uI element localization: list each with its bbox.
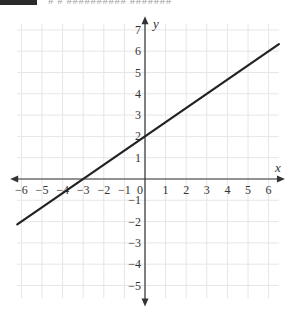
x-tick-label: −6 (15, 183, 28, 197)
y-tick-label: 7 (135, 23, 141, 37)
x-tick-label: 1 (163, 183, 169, 197)
x-tick-label: 2 (183, 183, 189, 197)
y-axis-label: y (151, 16, 159, 31)
x-tick-label: 6 (266, 183, 272, 197)
x-tick-label: 5 (245, 183, 251, 197)
x-tick-label: −2 (97, 183, 110, 197)
x-tick-label: −5 (36, 183, 49, 197)
x-axis-arrow-left-icon (10, 176, 18, 183)
y-tick-label: −3 (128, 236, 141, 250)
y-tick-label: −4 (128, 257, 141, 271)
y-axis-arrow-up-icon (142, 16, 149, 24)
y-tick-label: 6 (135, 44, 141, 58)
y-tick-label: −2 (128, 215, 141, 229)
y-tick-label: 5 (135, 66, 141, 80)
y-axis-arrow-down-icon (142, 299, 149, 307)
y-tick-label: −5 (128, 279, 141, 293)
line-graph: −6−5−4−3−2−10123456−5−4−3−2−11234567xy (0, 0, 295, 315)
x-tick-label: 3 (204, 183, 210, 197)
x-tick-label: 4 (224, 183, 230, 197)
y-tick-label: 3 (135, 108, 141, 122)
y-tick-label: 1 (135, 151, 141, 165)
y-tick-label: −1 (128, 193, 141, 207)
x-tick-label: −3 (77, 183, 90, 197)
data-line (17, 44, 279, 224)
x-axis-arrow-right-icon (277, 176, 285, 183)
y-tick-label: 4 (135, 87, 141, 101)
x-axis-label: x (274, 160, 281, 175)
